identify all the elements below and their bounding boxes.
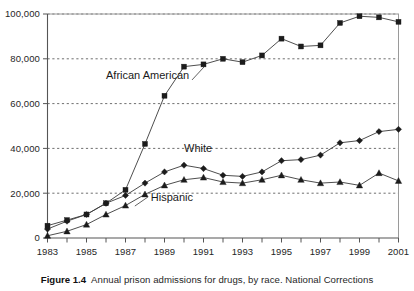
marker-diamond [161, 169, 167, 175]
tick-marks [43, 14, 399, 243]
caption-label: Figure 1.4 [41, 274, 86, 285]
y-axis-tick-labels: 020,00040,00060,00080,000100,000 [5, 8, 40, 243]
marker-square [260, 53, 265, 58]
series-annotations: African AmericanWhiteHispanic [106, 67, 212, 206]
marker-diamond [356, 137, 362, 143]
x-tick-label: 1997 [310, 246, 332, 257]
marker-square [240, 60, 245, 65]
marker-square [357, 14, 362, 19]
x-tick-label: 1991 [193, 246, 215, 257]
marker-diamond [376, 129, 382, 135]
marker-square [221, 56, 226, 61]
marker-triangle [122, 202, 128, 208]
annotation-african-american: African American [106, 69, 189, 81]
marker-square [396, 19, 401, 24]
series-african-american [45, 14, 401, 228]
figure-container: 020,00040,00060,00080,000100,000 1983198… [0, 0, 414, 291]
leader-line-hispanic [135, 197, 148, 206]
marker-square [338, 20, 343, 25]
marker-square [377, 15, 382, 20]
y-tick-label: 60,000 [10, 98, 40, 109]
leader-line-african-american [192, 67, 204, 80]
x-tick-label: 1987 [115, 246, 137, 257]
plot-frame [48, 14, 399, 238]
marker-diamond [200, 165, 206, 171]
marker-square [299, 44, 304, 49]
marker-triangle [395, 178, 401, 184]
y-tick-label: 80,000 [10, 53, 40, 64]
marker-square [279, 36, 284, 41]
marker-diamond [181, 162, 187, 168]
series-line [48, 16, 399, 225]
marker-diamond [298, 157, 304, 163]
marker-triangle [83, 221, 89, 227]
x-tick-label: 1989 [154, 246, 176, 257]
marker-diamond [259, 169, 265, 175]
marker-triangle [142, 191, 148, 197]
marker-triangle [337, 179, 343, 185]
marker-square [162, 93, 167, 98]
marker-triangle [376, 170, 382, 176]
x-tick-label: 1993 [232, 246, 254, 257]
line-chart: 020,00040,00060,00080,000100,000 1983198… [0, 0, 414, 291]
series-hispanic [44, 170, 401, 239]
caption-text: Annual prison admissions for drugs, by r… [91, 274, 373, 285]
marker-square [201, 62, 206, 67]
annotation-white: White [184, 142, 212, 154]
marker-diamond [395, 126, 401, 132]
gridlines [48, 14, 399, 193]
annotation-hispanic: Hispanic [151, 191, 194, 203]
x-tick-label: 1995 [271, 246, 293, 257]
marker-diamond [317, 152, 323, 158]
y-tick-label: 40,000 [10, 143, 40, 154]
x-tick-label: 1999 [349, 246, 371, 257]
x-tick-label: 2001 [388, 246, 410, 257]
marker-diamond [122, 192, 128, 198]
marker-diamond [220, 172, 226, 178]
x-tick-label: 1985 [76, 246, 98, 257]
x-axis-tick-labels: 1983198519871989199119931995199719992001 [37, 246, 410, 257]
data-series [44, 14, 401, 239]
marker-triangle [103, 211, 109, 217]
marker-diamond [278, 158, 284, 164]
marker-triangle [200, 174, 206, 180]
marker-triangle [278, 172, 284, 178]
figure-caption: Figure 1.4 Annual prison admissions for … [0, 268, 414, 291]
x-tick-label: 1983 [37, 246, 59, 257]
axes [48, 14, 399, 238]
marker-square [123, 187, 128, 192]
marker-diamond [239, 173, 245, 179]
marker-diamond [142, 180, 148, 186]
y-tick-label: 20,000 [10, 188, 40, 199]
marker-diamond [337, 140, 343, 146]
y-tick-label: 100,000 [5, 8, 40, 19]
marker-square [143, 141, 148, 146]
marker-square [318, 43, 323, 48]
y-tick-label: 0 [35, 232, 40, 243]
